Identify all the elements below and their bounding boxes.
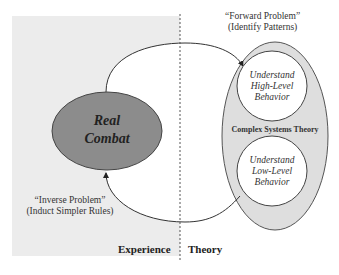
- inverse-problem-title: “Inverse Problem”: [20, 195, 120, 206]
- theory-label: Theory: [188, 244, 222, 255]
- inverse-problem-subtitle: (Induct Simpler Rules): [20, 206, 120, 217]
- forward-problem-title: “Forward Problem”: [225, 11, 300, 22]
- high-level-line3: Behavior: [237, 92, 307, 103]
- low-level-line2: Low-Level: [237, 166, 307, 177]
- forward-problem-label: “Forward Problem” (Identify Patterns): [225, 11, 300, 33]
- high-level-line1: Understand: [237, 70, 307, 81]
- low-level-label: Understand Low-Level Behavior: [237, 155, 307, 188]
- high-level-label: Understand High-Level Behavior: [237, 70, 307, 103]
- real-combat-label: Real Combat: [77, 112, 137, 148]
- real-combat-line1: Real: [77, 112, 137, 130]
- forward-problem-subtitle: (Identify Patterns): [225, 22, 300, 33]
- high-level-line2: High-Level: [237, 81, 307, 92]
- low-level-line3: Behavior: [237, 177, 307, 188]
- diagram-canvas: [0, 0, 339, 275]
- low-level-line1: Understand: [237, 155, 307, 166]
- complex-systems-label: Complex Systems Theory: [226, 124, 324, 135]
- real-combat-line2: Combat: [77, 130, 137, 148]
- experience-label: Experience: [118, 244, 171, 255]
- inverse-problem-label: “Inverse Problem” (Induct Simpler Rules): [20, 195, 120, 217]
